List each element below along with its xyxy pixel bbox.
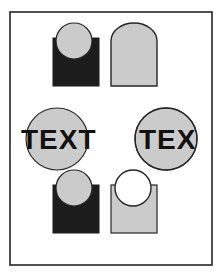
figure-union-light-top	[111, 23, 157, 86]
gray-circle	[56, 23, 92, 59]
artboard: TEXT TEXT	[0, 0, 222, 277]
gray-circle	[56, 170, 92, 206]
text-label-left: TEXT	[21, 124, 97, 155]
shape-composition-svg: TEXT TEXT	[0, 0, 222, 277]
union-shape	[111, 23, 157, 86]
white-circle	[115, 170, 151, 206]
